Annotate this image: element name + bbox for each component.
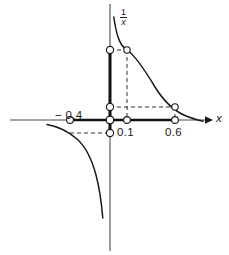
marker-origin: [106, 116, 114, 124]
marker-curve-x06: [172, 104, 178, 110]
curve-label-one-over-x: 1 x: [120, 8, 127, 28]
graph-figure: − 0.4 0.1 0.6 x 1 x: [0, 0, 229, 255]
fraction-one-over-x: 1 x: [120, 8, 127, 28]
x-tick-label-0-6: 0.6: [165, 127, 182, 139]
marker-y-167: [106, 103, 113, 110]
plot-canvas: [0, 0, 229, 255]
x-axis-label: x: [216, 113, 222, 125]
marker-x-01: [124, 117, 131, 124]
marker-y-10: [106, 46, 113, 53]
fraction-numerator: 1: [120, 8, 127, 17]
marker-curve-x01: [124, 47, 130, 53]
curve-left-branch: [47, 125, 103, 219]
x-tick-label-neg-0-4: − 0.4: [55, 110, 82, 122]
fraction-denominator: x: [120, 17, 127, 27]
marker-y-neg25: [106, 129, 113, 136]
x-axis-arrow-icon: [205, 116, 213, 124]
curve-right-branch: [114, 17, 203, 121]
x-tick-label-0-1: 0.1: [117, 127, 134, 139]
marker-x-06: [172, 117, 179, 124]
